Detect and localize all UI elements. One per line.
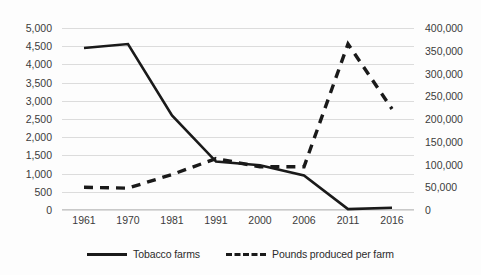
series-line <box>84 44 392 188</box>
x-axis-tick-label: 2011 <box>337 215 360 226</box>
y-axis-left-tick-label: 0 <box>46 205 52 216</box>
y-axis-right-ticks: 400,000350,000300,000250,000200,000150,0… <box>420 28 481 210</box>
x-axis-tick-label: 1961 <box>72 215 95 226</box>
x-axis-tick-label: 2016 <box>380 215 403 226</box>
y-axis-left-tick-label: 4,000 <box>26 59 52 70</box>
x-axis-tick-label: 1970 <box>116 215 139 226</box>
legend-label: Tobacco farms <box>133 248 200 260</box>
x-axis-tick-label: 1991 <box>204 215 227 226</box>
series-layer <box>62 28 414 210</box>
x-axis-tick-label: 2006 <box>292 215 315 226</box>
x-axis-tick-label: 2000 <box>248 215 271 226</box>
series-line <box>84 44 392 209</box>
y-axis-right-tick-label: 250,000 <box>425 91 463 102</box>
y-axis-right-tick-label: 100,000 <box>425 159 463 170</box>
legend-swatch-solid-icon <box>87 253 127 256</box>
y-axis-left-tick-label: 1,500 <box>26 150 52 161</box>
y-axis-right-tick-label: 350,000 <box>425 46 463 57</box>
y-axis-left-tick-label: 500 <box>34 187 52 198</box>
y-axis-left-tick-label: 3,000 <box>26 96 52 107</box>
y-axis-left-tick-label: 5,000 <box>26 23 52 34</box>
plot-area <box>62 28 414 210</box>
y-axis-right-tick-label: 400,000 <box>425 23 463 34</box>
y-axis-left-tick-label: 2,500 <box>26 114 52 125</box>
y-axis-right-tick-label: 200,000 <box>425 114 463 125</box>
grid-line <box>62 210 414 211</box>
legend-swatch-dashed-icon <box>226 253 266 256</box>
y-axis-right-tick-label: 50,000 <box>425 182 457 193</box>
legend-item[interactable]: Tobacco farms <box>87 248 200 260</box>
x-axis-tick-label: 1981 <box>160 215 183 226</box>
y-axis-left-tick-label: 4,500 <box>26 41 52 52</box>
x-axis-ticks: 19611970198119912000200620112016 <box>62 213 414 231</box>
y-axis-left-tick-label: 1,000 <box>26 168 52 179</box>
y-axis-right-tick-label: 150,000 <box>425 137 463 148</box>
y-axis-left-tick-label: 2,000 <box>26 132 52 143</box>
legend-item[interactable]: Pounds produced per farm <box>226 248 394 260</box>
legend-label: Pounds produced per farm <box>272 248 394 260</box>
chart-container: 5,0004,5004,0003,5003,0002,5002,0001,500… <box>0 0 481 275</box>
y-axis-left-tick-label: 3,500 <box>26 77 52 88</box>
y-axis-right-tick-label: 0 <box>425 205 431 216</box>
chart-legend: Tobacco farmsPounds produced per farm <box>0 244 481 264</box>
y-axis-left-ticks: 5,0004,5004,0003,5003,0002,5002,0001,500… <box>0 28 57 210</box>
y-axis-right-tick-label: 300,000 <box>425 68 463 79</box>
